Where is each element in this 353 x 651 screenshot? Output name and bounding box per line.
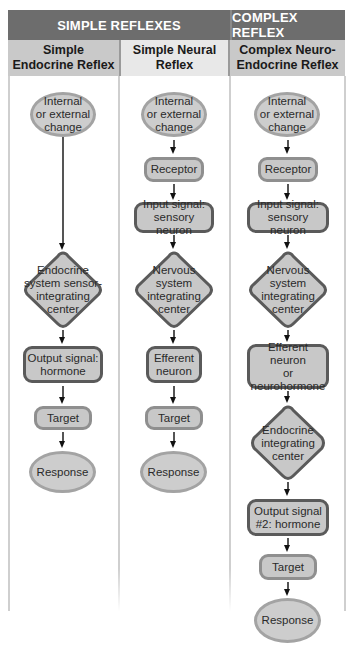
response-ellipse: Response — [140, 451, 207, 493]
label: sensory neuron — [137, 211, 211, 237]
receptor-box: Receptor — [144, 157, 204, 182]
label: Internal — [260, 95, 314, 108]
column-title-line: Simple Neural — [133, 43, 216, 58]
arrow-down-icon — [284, 489, 290, 496]
label: Internal — [147, 95, 201, 108]
label: integrating — [24, 290, 102, 303]
arrow-down-icon — [284, 589, 290, 596]
label: system — [261, 277, 315, 290]
label: or external — [260, 108, 314, 121]
arrow-down-icon — [284, 242, 290, 249]
target-box: Target — [259, 554, 317, 580]
arrow-down-icon — [284, 147, 290, 154]
target-box: Target — [145, 406, 203, 430]
label: Efferent — [154, 352, 194, 365]
label: neuron — [154, 365, 194, 378]
label: Target — [272, 561, 304, 574]
label: center — [147, 303, 201, 316]
label: or — [250, 367, 326, 380]
label: Internal — [36, 95, 90, 108]
nervous-integrating-center-diamond: Nervous system integrating center — [133, 250, 215, 330]
column-title-simple-endocrine: Simple Endocrine Reflex — [8, 40, 119, 76]
connector-line — [62, 137, 64, 245]
response-ellipse: Response — [29, 451, 96, 493]
column-title-line: Endocrine Reflex — [236, 58, 338, 73]
label: center — [261, 303, 315, 316]
arrow-down-icon — [59, 397, 65, 404]
stimulus-ellipse: Internal or external change — [141, 92, 207, 137]
header-complex-reflex-label: COMPLEX REFLEX — [232, 10, 345, 40]
output-signal-2-box: Output signal #2: hormone — [247, 499, 329, 536]
label: system — [147, 277, 201, 290]
label: sensory neuron — [250, 211, 326, 237]
label: #2: hormone — [254, 518, 322, 531]
column-title-complex-neuroendocrine: Complex Neuro- Endocrine Reflex — [230, 40, 345, 76]
receptor-box: Receptor — [258, 157, 318, 182]
input-signal-box: Input signal: sensory neuron — [134, 202, 214, 233]
label: Target — [158, 412, 190, 425]
column-title-line: Complex Neuro- — [236, 43, 338, 58]
label: system sensor- — [24, 277, 102, 290]
column-title-line: Simple — [12, 43, 114, 58]
arrow-down-icon — [170, 147, 176, 154]
label: change — [147, 121, 201, 134]
header-complex-reflex: COMPLEX REFLEX — [230, 10, 345, 40]
label: change — [260, 121, 314, 134]
arrow-down-icon — [59, 337, 65, 344]
label: Target — [47, 412, 79, 425]
endocrine-integrating-center-diamond: Endocrine integrating center — [249, 404, 327, 482]
stimulus-ellipse: Internal or external change — [254, 92, 320, 137]
label: or external — [36, 108, 90, 121]
input-signal-box: Input signal: sensory neuron — [247, 202, 329, 233]
output-signal-box: Output signal: hormone — [23, 346, 103, 383]
label: Nervous — [261, 264, 315, 277]
column-title-simple-neural: Simple Neural Reflex — [119, 40, 230, 76]
efferent-neuron-or-neurohormone-box: Efferent neuron or neurohormone — [247, 344, 329, 389]
arrow-down-icon — [284, 545, 290, 552]
label: integrating — [261, 290, 315, 303]
label: Receptor — [265, 163, 312, 176]
label: change — [36, 121, 90, 134]
arrow-down-icon — [284, 396, 290, 403]
column-title-line: Endocrine Reflex — [12, 58, 114, 73]
integrating-center-diamond: Endocrine system sensor- integrating cen… — [22, 250, 104, 330]
label: Output signal — [254, 505, 322, 518]
label: Response — [148, 466, 200, 479]
header-simple-reflexes-label: SIMPLE REFLEXES — [57, 18, 181, 33]
label: Endocrine — [24, 264, 102, 277]
label: Input signal: — [137, 198, 211, 211]
label: center — [24, 303, 102, 316]
label: Receptor — [151, 163, 198, 176]
label: Input signal: — [250, 198, 326, 211]
arrow-down-icon — [59, 243, 65, 250]
label: Endocrine — [261, 424, 315, 437]
label: integrating — [147, 290, 201, 303]
label: hormone — [28, 365, 99, 378]
efferent-neuron-box: Efferent neuron — [146, 346, 202, 383]
label: Efferent neuron — [250, 341, 326, 367]
stimulus-ellipse: Internal or external change — [30, 92, 96, 137]
arrow-down-icon — [170, 397, 176, 404]
nervous-integrating-center-diamond: Nervous system integrating center — [247, 250, 329, 330]
arrow-down-icon — [59, 441, 65, 448]
column-title-line: Reflex — [133, 58, 216, 73]
arrow-down-icon — [170, 337, 176, 344]
label: Nervous — [147, 264, 201, 277]
header-simple-reflexes: SIMPLE REFLEXES — [8, 10, 230, 40]
label: Output signal: — [28, 352, 99, 365]
label: Response — [37, 466, 89, 479]
arrow-down-icon — [170, 242, 176, 249]
label: center — [261, 450, 315, 463]
response-ellipse: Response — [254, 598, 321, 643]
label: or external — [147, 108, 201, 121]
target-box: Target — [34, 406, 92, 430]
arrow-down-icon — [170, 441, 176, 448]
label: integrating — [261, 437, 315, 450]
label: Response — [262, 614, 314, 627]
